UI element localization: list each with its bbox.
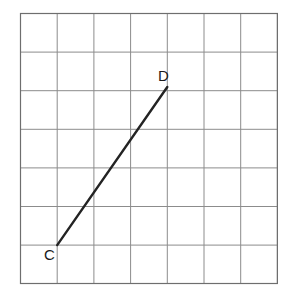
segment-cd (57, 87, 167, 245)
point-label-c: C (44, 247, 55, 262)
geometry-figure: C D (0, 0, 290, 297)
point-label-d: D (158, 68, 169, 83)
